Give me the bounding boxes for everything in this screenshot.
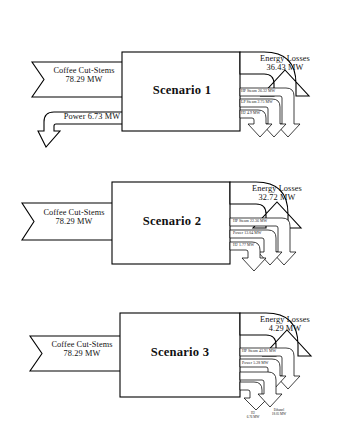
scenario-1-hydrogen-label: H2 4.9 MW [241, 111, 285, 115]
feedstock-value: 78.29 MW [36, 218, 112, 227]
feedstock-value: 78.29 MW [44, 350, 120, 359]
scenario-3-title: Scenario 3 [126, 346, 234, 360]
scenario-2-hp-steam-label: HP Steam 22.36 MW [233, 219, 295, 223]
scenario-2-feedstock-label: Coffee Cut-Stems 78.29 MW [36, 209, 112, 227]
scenario-2-title: Scenario 2 [118, 215, 226, 229]
losses-value: 4.29 MW [244, 325, 326, 334]
scenario-3-losses-label: Energy Losses 4.29 MW [244, 316, 326, 334]
feedstock-value: 78.29 MW [46, 76, 122, 85]
scenario-1-lp-steam-label: LP Steam 2.75 MW [241, 100, 297, 104]
losses-value: 32.72 MW [236, 194, 318, 203]
scenario-1-title: Scenario 1 [128, 84, 236, 98]
scenario-3-power-label: Power 5.28 MW [242, 361, 298, 365]
ethanol-value: 18.05 MW [262, 413, 296, 417]
scenario-3-hp-steam-label: HP Steam 43.91 MW [242, 349, 304, 353]
scenario-1-hp-steam-label: HP Steam 26.32 MW [241, 89, 303, 93]
scenario-2-power-label: Power 13.04 MW [233, 231, 289, 235]
scenario-1-losses-label: Energy Losses 36.43 MW [244, 55, 326, 73]
scenario-2-losses-label: Energy Losses 32.72 MW [236, 185, 318, 203]
diagram-canvas: Coffee Cut-Stems 78.29 MW Power 6.73 MW … [0, 0, 356, 436]
scenario-1-power-inlet-label: Power 6.73 MW [56, 113, 128, 122]
scenario-1-feedstock-label: Coffee Cut-Stems 78.29 MW [46, 67, 122, 85]
losses-value: 36.43 MW [244, 64, 326, 73]
scenario-3-ethanol-label: Ethanol 18.05 MW [262, 409, 296, 416]
scenario-3-feedstock-label: Coffee Cut-Stems 78.29 MW [44, 341, 120, 359]
scenario-2-hydrogen-label: H2 1.77 MW [233, 243, 277, 247]
